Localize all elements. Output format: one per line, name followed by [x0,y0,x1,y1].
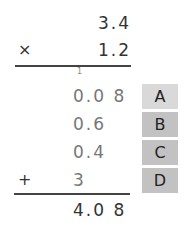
label-box-a: A [142,84,178,109]
carry-digit: 1 [77,67,82,76]
label-d: D [154,171,166,190]
label-c: C [154,143,165,162]
add-operator: + [18,170,31,190]
label-b: B [155,115,166,134]
multiplication-rule [15,65,131,67]
label-a: A [155,87,166,106]
partial-product-d: 3 [73,170,86,190]
partial-product-a: 0.0 8 [73,86,126,106]
multiply-operator: × [18,40,31,60]
partial-product-b: 0.6 [73,114,106,134]
label-box-d: D [142,168,178,193]
multiplicand: 3.4 [98,13,131,33]
multiplier: 1.2 [98,40,131,60]
partial-product-c: 0.4 [73,142,106,162]
label-box-c: C [142,140,178,165]
result: 4.0 8 [73,200,126,220]
label-box-b: B [142,112,178,137]
sum-rule [14,193,130,195]
